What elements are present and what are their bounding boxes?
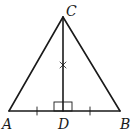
triangle-diagram xyxy=(0,0,137,132)
point-label-a: A xyxy=(2,117,12,131)
point-label-b: B xyxy=(120,117,130,131)
point-label-c: C xyxy=(66,4,77,18)
segment-ac xyxy=(9,17,63,111)
segment-bc xyxy=(63,17,120,111)
point-label-d: D xyxy=(58,117,69,131)
